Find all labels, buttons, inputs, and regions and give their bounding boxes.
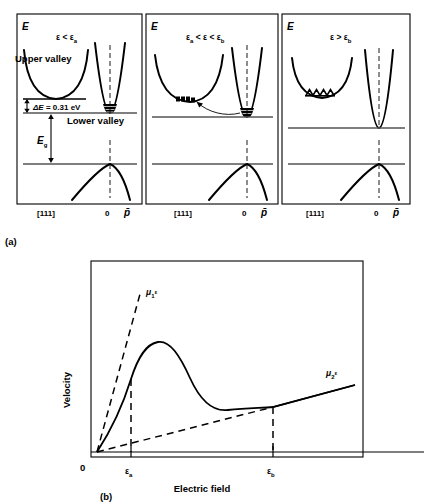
axis-tick-momentum: p̄	[260, 207, 267, 218]
electron-transfer-arrow	[197, 102, 241, 115]
axis-tick-momentum: p̄	[392, 207, 399, 218]
axis-tick-111: [111]	[37, 209, 55, 218]
axis-tick-111: [111]	[306, 209, 324, 218]
figure-svg: E ε < εa	[0, 0, 424, 504]
panel-condition-label: ε > εb	[330, 32, 352, 44]
band-gap-label: Eg	[37, 135, 48, 148]
band-gap-arrow	[48, 114, 54, 163]
x-axis-label: Electric field	[174, 483, 231, 494]
chart-border	[91, 261, 363, 457]
epsilon-a-tick-label: εa	[125, 466, 133, 478]
axis-tick-zero: 0	[242, 209, 247, 218]
caption-a: (a)	[5, 236, 17, 247]
energy-axis-label: E	[287, 21, 294, 32]
valence-band	[341, 164, 399, 200]
energy-axis-label: E	[22, 21, 29, 32]
epsilon-b-tick-label: εb	[267, 466, 275, 478]
y-axis-label: Velocity	[61, 371, 72, 408]
figure-container: E ε < εa	[0, 0, 424, 504]
upper-valley-band	[155, 55, 223, 102]
upper-valley-label: Upper valley	[15, 53, 72, 64]
axis-tick-zero: 0	[374, 209, 379, 218]
lower-valley-band	[232, 48, 262, 117]
valence-band	[209, 164, 267, 200]
panel-mid-field: E εa < ε < εb [111]	[146, 14, 278, 218]
velocity-field-curve	[97, 342, 355, 452]
velocity-field-chart: Velocity μ1ε μ2ε 0 εa εb Electric f	[61, 261, 424, 494]
delta-e-arrow	[24, 99, 29, 113]
axis-tick-111: [111]	[174, 209, 192, 218]
delta-e-label: ΔE = 0.31 eV	[32, 103, 81, 112]
mu1-epsilon-label: μ1ε	[145, 287, 157, 299]
origin-label: 0	[80, 462, 85, 473]
panel-high-field: E ε > εb [111] 0 p̄	[282, 14, 410, 218]
panel-condition-label: εa < ε < εb	[186, 32, 225, 44]
caption-b: (b)	[100, 491, 112, 502]
lower-valley-label: Lower valley	[67, 115, 125, 126]
axis-tick-zero: 0	[105, 209, 110, 218]
panel-condition-label: ε < εa	[56, 32, 78, 44]
axis-tick-momentum: p̄	[123, 207, 130, 218]
valence-band	[72, 164, 130, 200]
panel-low-field: E ε < εa	[15, 14, 142, 218]
mu2-epsilon-label: μ2ε	[325, 368, 337, 380]
energy-axis-label: E	[151, 21, 158, 32]
mu2-asymptote-dashed	[97, 407, 273, 452]
